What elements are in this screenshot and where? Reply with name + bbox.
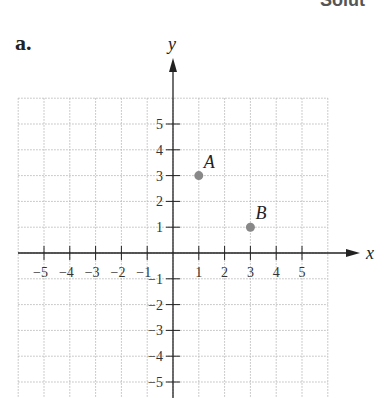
y-tick-label: −3 (148, 323, 163, 338)
y-tick-label: 2 (156, 194, 163, 209)
y-tick-label: −2 (148, 298, 163, 313)
x-tick-label: 4 (273, 265, 280, 280)
y-axis-arrow-icon (169, 58, 177, 72)
y-tick-label: 3 (156, 169, 163, 184)
point-b (246, 223, 255, 232)
y-tick-label: 4 (156, 143, 163, 158)
x-tick-label: −5 (33, 265, 48, 280)
y-tick-label: −5 (148, 375, 163, 390)
y-tick-label: 5 (156, 117, 163, 132)
coordinate-plane: xy−5−4−3−2−112345−5−4−3−2−112345AB (0, 0, 386, 398)
x-tick-label: −4 (59, 265, 74, 280)
x-tick-label: 2 (221, 265, 228, 280)
x-axis-label: x (365, 243, 374, 263)
point-label-a: A (203, 152, 216, 172)
y-tick-label: −1 (148, 272, 163, 287)
x-axis-arrow-icon (346, 249, 360, 257)
y-axis-label: y (166, 34, 176, 54)
x-tick-label: −2 (110, 265, 125, 280)
x-tick-label: −3 (85, 265, 100, 280)
x-tick-label: 1 (195, 265, 202, 280)
y-tick-label: −4 (148, 349, 163, 364)
x-tick-label: 5 (299, 265, 306, 280)
y-tick-label: 1 (156, 220, 163, 235)
x-tick-label: 3 (247, 265, 254, 280)
point-label-b: B (255, 203, 266, 223)
point-a (194, 171, 203, 180)
